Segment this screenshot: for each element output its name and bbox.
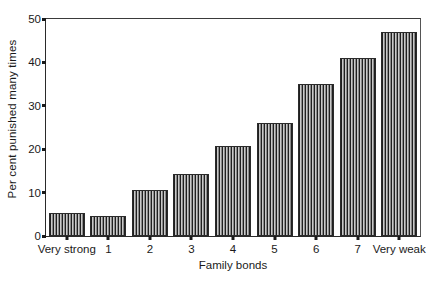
y-tick-label: 30 bbox=[28, 100, 41, 112]
x-tick-mark bbox=[398, 236, 401, 240]
bar bbox=[215, 146, 251, 236]
x-tick-label: 6 bbox=[313, 243, 319, 255]
bar-chart-figure: Per cent punished many times 01020304050… bbox=[0, 0, 446, 288]
x-tick-label: 3 bbox=[188, 243, 194, 255]
x-tick-label: 5 bbox=[271, 243, 277, 255]
bar bbox=[257, 123, 293, 236]
y-tick-label: 10 bbox=[28, 187, 41, 199]
y-axis-title-text: Per cent punished many times bbox=[6, 40, 18, 199]
x-tick-mark bbox=[232, 236, 235, 240]
x-tick-mark bbox=[273, 236, 276, 240]
x-tick-mark bbox=[107, 236, 110, 240]
y-tick-label: 20 bbox=[28, 143, 41, 155]
x-tick-label: Very weak bbox=[373, 243, 426, 255]
y-tick-mark bbox=[42, 191, 46, 194]
y-axis-title: Per cent punished many times bbox=[0, 0, 24, 238]
x-tick-label: 7 bbox=[354, 243, 360, 255]
x-tick-mark bbox=[356, 236, 359, 240]
y-tick-mark bbox=[42, 235, 46, 238]
bar bbox=[90, 216, 126, 236]
bar bbox=[132, 190, 168, 236]
x-tick-mark bbox=[148, 236, 151, 240]
x-tick-label: 1 bbox=[105, 243, 111, 255]
bar bbox=[298, 84, 334, 236]
y-tick-mark bbox=[42, 61, 46, 64]
plot-area: 01020304050 Very strong1234567Very weak bbox=[45, 18, 421, 237]
x-axis-title: Family bonds bbox=[45, 259, 421, 271]
y-tick-mark bbox=[42, 18, 46, 21]
y-tick-label: 40 bbox=[28, 56, 41, 68]
x-tick-label: Very strong bbox=[38, 243, 96, 255]
bar bbox=[49, 213, 85, 236]
x-tick-label: 2 bbox=[147, 243, 153, 255]
y-tick-label: 50 bbox=[28, 13, 41, 25]
bar bbox=[381, 32, 417, 236]
x-tick-mark bbox=[190, 236, 193, 240]
y-tick-label: 0 bbox=[35, 230, 41, 242]
x-tick-mark bbox=[315, 236, 318, 240]
x-tick-mark bbox=[65, 236, 68, 240]
bar bbox=[173, 174, 209, 236]
bar bbox=[340, 58, 376, 236]
x-tick-label: 4 bbox=[230, 243, 236, 255]
y-tick-mark bbox=[42, 104, 46, 107]
y-tick-mark bbox=[42, 148, 46, 151]
